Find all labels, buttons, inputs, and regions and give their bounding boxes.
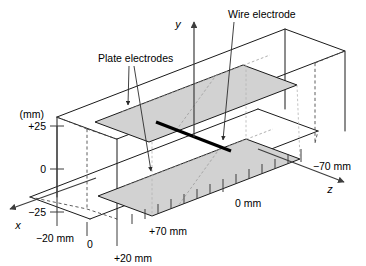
wire-electrode-label: Wire electrode: [228, 8, 296, 20]
plate-electrodes-leader-upper: [128, 66, 129, 105]
z-scale-label-zero: 0 mm: [235, 197, 262, 209]
y-scale-label-zero: 0: [40, 163, 46, 175]
y-axis-label: y: [174, 18, 182, 30]
x-scale-label-plus20: +20 mm: [114, 252, 152, 264]
x-axis-group: x: [10, 178, 96, 231]
y-scale-label-minus25: −25: [28, 206, 46, 218]
box-bottom-right-edge: [258, 109, 318, 131]
x-axis-line: [10, 178, 96, 209]
plate-electrodes-label: Plate electrodes: [98, 52, 173, 64]
diagram-root: y z x (mm) +25 0 −25 −20 mm: [0, 0, 366, 266]
x-scale-bar: −20 mm 0 +20 mm: [36, 212, 152, 264]
y-scale-unit-label: (mm): [20, 108, 45, 120]
upper-plate-electrode: [95, 55, 297, 142]
lower-plate-surface: [98, 139, 300, 216]
box-hidden-bottom-edge: [315, 131, 318, 143]
x-scale-label-minus20: −20 mm: [36, 232, 74, 244]
x-scale-label-zero: 0: [87, 238, 93, 250]
z-scale-label-minus70: −70 mm: [313, 160, 351, 172]
y-scale-label-plus25: +25: [28, 120, 46, 132]
x-axis-label: x: [14, 219, 21, 231]
electrode-geometry-diagram: y z x (mm) +25 0 −25 −20 mm: [0, 0, 366, 266]
construction-vertical-c: [297, 85, 300, 159]
z-axis-label: z: [326, 183, 333, 195]
lower-plate-electrode: [98, 129, 300, 216]
upper-plate-surface: [95, 65, 297, 142]
z-scale-label-plus70: +70 mm: [149, 225, 187, 237]
